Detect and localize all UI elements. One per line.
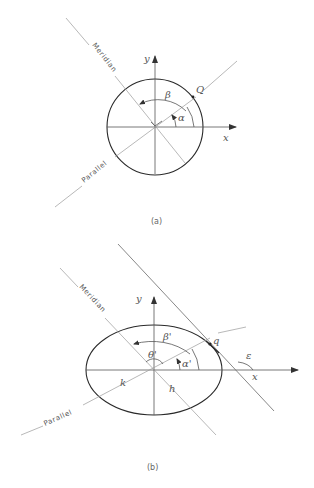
parallel-line-upper bbox=[218, 327, 246, 333]
figure-b: Meridian Parallel y x q β' θ' α' ε h k (… bbox=[21, 244, 298, 472]
tangent-line bbox=[118, 244, 274, 411]
parallel-line-lower bbox=[21, 426, 43, 435]
label-y: y bbox=[135, 293, 142, 304]
caption-a: (a) bbox=[151, 217, 162, 226]
label-theta: θ' bbox=[148, 349, 157, 360]
alpha-arc bbox=[192, 349, 199, 370]
alpha-small-arc bbox=[177, 359, 180, 370]
label-parallel: Parallel bbox=[43, 408, 74, 428]
label-meridian: Meridian bbox=[78, 283, 108, 314]
label-x: x bbox=[252, 371, 258, 382]
parallel-line-inner bbox=[83, 338, 210, 405]
label-meridian: Meridian bbox=[90, 41, 118, 74]
meridian-line-upper bbox=[60, 268, 78, 287]
label-k: k bbox=[120, 377, 126, 388]
meridian-line bbox=[66, 18, 89, 45]
figure-a: Meridian Parallel y x Q β α (a) bbox=[55, 18, 237, 226]
label-beta: β bbox=[164, 89, 171, 100]
label-q: Q bbox=[196, 84, 204, 95]
label-q: q bbox=[213, 335, 219, 346]
caption-b: (b) bbox=[147, 463, 158, 472]
parallel-line-upper bbox=[204, 61, 237, 90]
diagram-canvas: Meridian Parallel y x Q β α (a) bbox=[0, 0, 314, 488]
label-y: y bbox=[143, 53, 150, 64]
epsilon-arc bbox=[238, 362, 253, 370]
alpha-arc bbox=[187, 107, 194, 127]
label-epsilon: ε bbox=[246, 350, 251, 361]
parallel-line-lower bbox=[55, 186, 82, 207]
label-parallel: Parallel bbox=[80, 159, 109, 184]
label-x: x bbox=[223, 132, 229, 143]
label-beta: β' bbox=[162, 331, 172, 342]
point-q bbox=[192, 96, 195, 99]
label-alpha: α bbox=[178, 112, 185, 123]
alpha-small-arc bbox=[172, 115, 176, 127]
label-h: h bbox=[169, 383, 175, 394]
beta-arc bbox=[134, 341, 190, 354]
label-alpha: α' bbox=[182, 358, 192, 369]
